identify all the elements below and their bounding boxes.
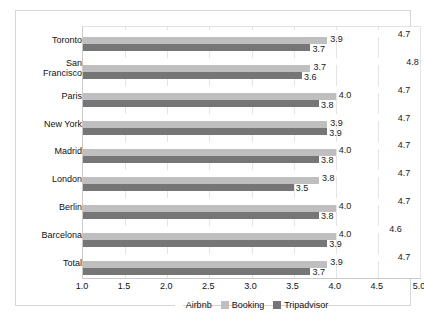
bar-booking: 3.7 — [83, 65, 310, 72]
bar-value-label: 3.6 — [304, 73, 317, 82]
bar-group: 4.83.73.6 — [83, 55, 420, 83]
category-label-text: London — [52, 174, 82, 184]
bar-airbnb: 4.8 — [83, 58, 403, 65]
bar-value-label: 4.0 — [339, 202, 352, 211]
bar-value-label: 4.7 — [398, 253, 411, 262]
bar-airbnb: 4.7 — [83, 114, 395, 121]
x-tick-label: 1.5 — [118, 281, 131, 291]
bar-tripadvisor: 3.8 — [83, 100, 319, 107]
bar-value-label: 4.7 — [398, 141, 411, 150]
category-label-berlin: Berlin — [32, 193, 82, 221]
bar-group: 4.73.93.9 — [83, 111, 420, 139]
legend-swatch-icon — [175, 301, 183, 309]
chart-legend: AirbnbBookingTripadvisor — [82, 298, 421, 312]
bar-value-label: 3.7 — [313, 63, 326, 72]
bar-booking: 4.0 — [83, 233, 336, 240]
legend-item-tripadvisor[interactable]: Tripadvisor — [273, 300, 328, 310]
bar-airbnb: 4.7 — [83, 170, 395, 177]
x-tick-label: 2.0 — [160, 281, 173, 291]
bar-tripadvisor: 3.8 — [83, 212, 319, 219]
bar-tripadvisor: 3.9 — [83, 128, 327, 135]
category-label-barcelona: Barcelona — [32, 221, 82, 249]
legend-swatch-icon — [273, 301, 281, 309]
x-tick-label: 3.0 — [244, 281, 257, 291]
category-label-text: Toronto — [52, 35, 82, 45]
x-tick-label: 1.0 — [76, 281, 89, 291]
category-label-san-francisco: San Francisco — [32, 54, 82, 82]
bar-value-label: 4.7 — [398, 113, 411, 122]
bar-booking: 4.0 — [83, 205, 336, 212]
bar-value-label: 3.7 — [312, 268, 325, 277]
legend-label: Booking — [232, 300, 265, 310]
bar-tripadvisor: 3.6 — [83, 72, 302, 79]
bar-value-label: 3.8 — [321, 156, 334, 165]
bar-group: 4.73.83.5 — [83, 166, 420, 194]
bar-value-label: 4.7 — [398, 197, 411, 206]
bar-tripadvisor: 3.7 — [83, 268, 310, 275]
bar-value-label: 3.5 — [296, 184, 309, 193]
bar-group: 4.74.03.8 — [83, 83, 420, 111]
bar-booking: 3.9 — [83, 121, 327, 128]
x-tick-label: 5.0 — [413, 281, 424, 291]
bar-tripadvisor: 3.7 — [83, 44, 310, 51]
category-label-new-york: New York — [32, 110, 82, 138]
bar-value-label: 3.8 — [322, 175, 335, 184]
plot-area: 4.73.93.74.83.73.64.74.03.84.73.93.94.74… — [82, 26, 421, 279]
bar-airbnb: 4.7 — [83, 254, 395, 261]
bar-booking: 3.9 — [83, 37, 327, 44]
bar-group: 4.73.93.7 — [83, 27, 420, 55]
category-label-text: Berlin — [59, 202, 82, 212]
bar-group: 4.64.03.9 — [83, 222, 420, 250]
bar-value-label: 4.0 — [339, 91, 352, 100]
category-axis-labels: TorontoSan FranciscoParisNew YorkMadridL… — [32, 26, 82, 279]
gridline — [420, 27, 421, 278]
bar-tripadvisor: 3.8 — [83, 156, 319, 163]
bar-booking: 3.8 — [83, 177, 319, 184]
bar-group: 4.74.03.8 — [83, 139, 420, 167]
category-label-text: Madrid — [54, 146, 82, 156]
bar-value-label: 3.9 — [330, 35, 343, 44]
x-tick-label: 2.5 — [202, 281, 215, 291]
bar-value-label: 4.7 — [398, 169, 411, 178]
bar-booking: 4.0 — [83, 93, 336, 100]
bar-chart: 4.73.93.74.83.73.64.74.03.84.73.93.94.74… — [0, 0, 424, 317]
category-label-paris: Paris — [32, 82, 82, 110]
bar-rows: 4.73.93.74.83.73.64.74.03.84.73.93.94.74… — [83, 27, 420, 278]
bar-value-label: 4.7 — [398, 29, 411, 38]
legend-label: Airbnb — [186, 300, 212, 310]
bar-group: 4.73.93.7 — [83, 250, 420, 278]
bar-tripadvisor: 3.5 — [83, 184, 294, 191]
bar-value-label: 3.8 — [321, 101, 334, 110]
bar-tripadvisor: 3.9 — [83, 240, 327, 247]
category-label-text: San Francisco — [32, 58, 82, 78]
bar-value-label: 3.9 — [329, 128, 342, 137]
category-label-text: New York — [44, 119, 82, 129]
bar-value-label: 3.9 — [330, 119, 343, 128]
x-tick-label: 3.5 — [286, 281, 299, 291]
category-label-text: Total — [63, 258, 82, 268]
bar-value-label: 3.9 — [329, 240, 342, 249]
chart-frame: 4.73.93.74.83.73.64.74.03.84.73.93.94.74… — [15, 10, 411, 306]
category-label-text: Barcelona — [41, 230, 82, 240]
bar-value-label: 4.8 — [406, 57, 419, 66]
legend-item-airbnb[interactable]: Airbnb — [175, 300, 212, 310]
category-label-toronto: Toronto — [32, 26, 82, 54]
bar-airbnb: 4.7 — [83, 30, 395, 37]
bar-group: 4.74.03.8 — [83, 194, 420, 222]
category-label-london: London — [32, 165, 82, 193]
legend-label: Tripadvisor — [284, 300, 328, 310]
bar-value-label: 4.6 — [389, 225, 402, 234]
bar-booking: 3.9 — [83, 261, 327, 268]
category-label-text: Paris — [61, 91, 82, 101]
category-label-total: Total — [32, 249, 82, 277]
x-tick-label: 4.0 — [328, 281, 341, 291]
legend-item-booking[interactable]: Booking — [221, 300, 265, 310]
x-axis-tick-labels: 1.01.52.02.53.03.54.04.55.0 — [82, 281, 421, 295]
bar-value-label: 3.7 — [312, 45, 325, 54]
bar-value-label: 4.0 — [339, 230, 352, 239]
legend-swatch-icon — [221, 301, 229, 309]
bar-value-label: 4.0 — [339, 147, 352, 156]
bar-value-label: 3.8 — [321, 212, 334, 221]
category-label-madrid: Madrid — [32, 138, 82, 166]
bar-value-label: 4.7 — [398, 85, 411, 94]
